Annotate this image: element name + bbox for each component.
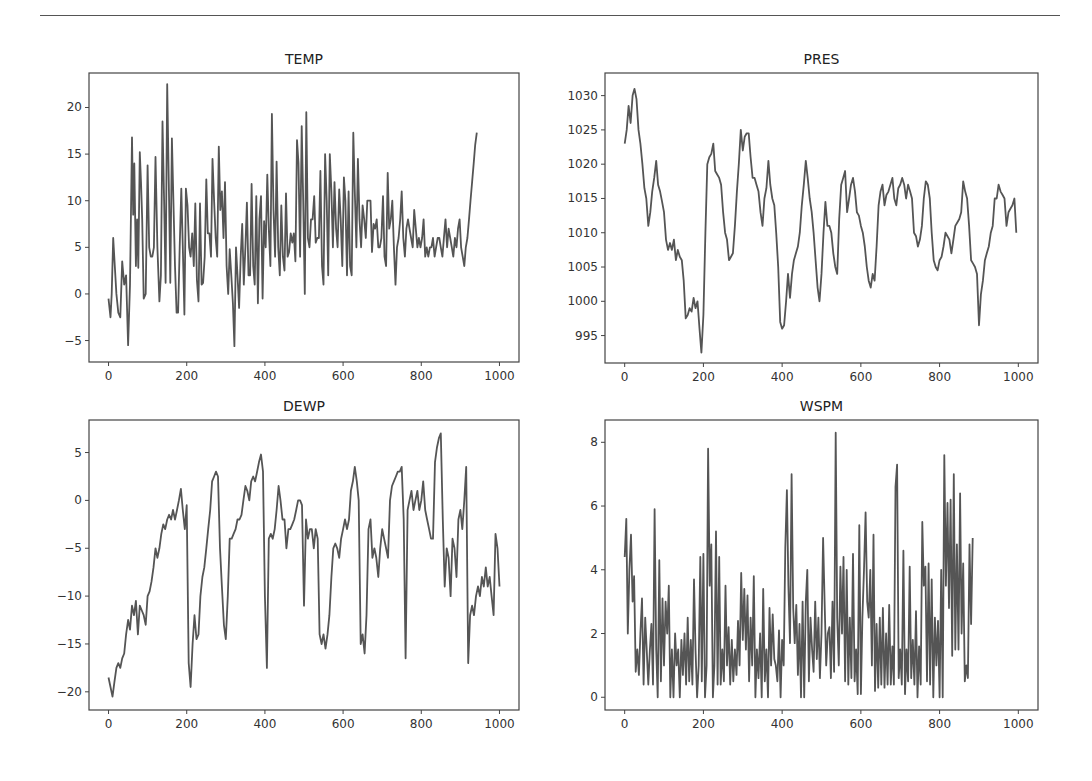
y-tick-label: 5 bbox=[74, 240, 82, 254]
y-tick-label: −10 bbox=[57, 589, 82, 603]
y-tick-label: 1030 bbox=[567, 89, 598, 103]
x-tick-label: 200 bbox=[175, 369, 198, 383]
y-tick-label: 10 bbox=[67, 194, 82, 208]
y-tick-label: 0 bbox=[74, 287, 82, 301]
y-tick-label: 6 bbox=[590, 499, 598, 513]
x-tick-label: 200 bbox=[175, 717, 198, 731]
x-tick-label: 1000 bbox=[1003, 370, 1034, 384]
y-tick-label: 1005 bbox=[567, 260, 598, 274]
y-tick-label: 1010 bbox=[567, 226, 598, 240]
y-tick-label: 4 bbox=[590, 563, 598, 577]
x-tick-label: 600 bbox=[332, 369, 355, 383]
y-tick-label: −15 bbox=[57, 637, 82, 651]
y-tick-label: −20 bbox=[57, 685, 82, 699]
subplot-temp: 02004006008001000−505101520 bbox=[89, 73, 519, 362]
x-tick-label: 200 bbox=[692, 717, 715, 731]
subplot-title-pres: PRES bbox=[804, 51, 840, 67]
y-tick-label: 0 bbox=[74, 493, 82, 507]
y-tick-label: 1015 bbox=[567, 191, 598, 205]
y-tick-label: 20 bbox=[67, 100, 82, 114]
series-line-temp bbox=[109, 84, 477, 346]
subplot-title-wspm: WSPM bbox=[800, 398, 843, 414]
y-tick-label: 8 bbox=[590, 435, 598, 449]
x-tick-label: 0 bbox=[621, 717, 629, 731]
y-tick-label: −5 bbox=[64, 541, 82, 555]
x-tick-label: 800 bbox=[410, 717, 433, 731]
series-line-wspm bbox=[625, 433, 973, 698]
subplot-title-temp: TEMP bbox=[285, 51, 323, 67]
x-tick-label: 400 bbox=[253, 369, 276, 383]
x-tick-label: 800 bbox=[928, 717, 951, 731]
y-tick-label: 15 bbox=[67, 147, 82, 161]
x-tick-label: 1000 bbox=[484, 717, 515, 731]
y-tick-label: 2 bbox=[590, 627, 598, 641]
x-tick-label: 600 bbox=[849, 717, 872, 731]
x-tick-label: 400 bbox=[253, 717, 276, 731]
x-tick-label: 600 bbox=[332, 717, 355, 731]
y-tick-label: 5 bbox=[74, 446, 82, 460]
x-tick-label: 0 bbox=[105, 717, 113, 731]
y-tick-label: 995 bbox=[575, 329, 598, 343]
x-tick-label: 400 bbox=[771, 370, 794, 384]
y-tick-label: 0 bbox=[590, 690, 598, 704]
subplot-pres: 0200400600800100099510001005101010151020… bbox=[605, 73, 1038, 363]
series-line-pres bbox=[625, 89, 1017, 353]
x-tick-label: 800 bbox=[410, 369, 433, 383]
series-line-dewp bbox=[109, 433, 500, 696]
x-tick-label: 600 bbox=[849, 370, 872, 384]
subplot-title-dewp: DEWP bbox=[283, 398, 325, 414]
subplot-wspm: 0200400600800100002468 bbox=[605, 420, 1038, 710]
x-tick-label: 400 bbox=[771, 717, 794, 731]
subplot-dewp: 02004006008001000−20−15−10−505 bbox=[89, 420, 519, 710]
y-tick-label: 1020 bbox=[567, 157, 598, 171]
y-tick-label: 1025 bbox=[567, 123, 598, 137]
axes-frame bbox=[605, 73, 1038, 363]
x-tick-label: 0 bbox=[621, 370, 629, 384]
top-rule-divider bbox=[40, 15, 1060, 16]
x-tick-label: 1000 bbox=[484, 369, 515, 383]
y-tick-label: 1000 bbox=[567, 294, 598, 308]
x-tick-label: 1000 bbox=[1003, 717, 1034, 731]
x-tick-label: 0 bbox=[105, 369, 113, 383]
x-tick-label: 800 bbox=[928, 370, 951, 384]
x-tick-label: 200 bbox=[692, 370, 715, 384]
y-tick-label: −5 bbox=[64, 334, 82, 348]
